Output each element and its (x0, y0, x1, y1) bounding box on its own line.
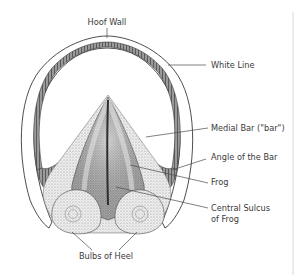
label-bulbs-of-heel: Bulbs of Heel (79, 251, 133, 261)
label-central-sulcus-line1: Central Sulcus (211, 203, 270, 213)
label-central-sulcus-line2: of Frog (211, 214, 239, 224)
label-medial-bar: Medial Bar ("bar") (211, 123, 285, 133)
label-frog: Frog (211, 177, 229, 187)
label-angle-of-bar: Angle of the Bar (211, 152, 278, 162)
leader-bulb-right (119, 232, 137, 250)
label-hoof-wall: Hoof Wall (88, 17, 127, 27)
central-sulcus (107, 100, 108, 205)
label-white-line: White Line (211, 60, 254, 70)
leader-bulb-left (72, 232, 92, 250)
hoof-diagram: Hoof Wall White Line Medial Bar ("bar") … (0, 0, 296, 275)
